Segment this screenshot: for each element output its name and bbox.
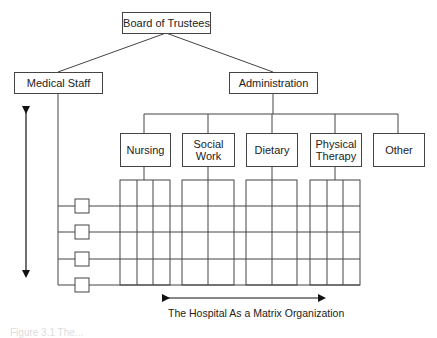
medical-row-node [75,199,89,213]
medical-staff-node: Medical Staff [14,72,103,94]
medical-row-node [75,225,89,239]
diagram-title: The Hospital As a Matrix Organization [168,307,344,319]
connector-board-admin [166,33,273,72]
social-work-node: Social Work [182,133,235,167]
physical-therapy-node: Physical Therapy [310,133,362,167]
nursing-node: Nursing [120,133,171,167]
board-of-trustees-node: Board of Trustees [122,12,211,34]
medical-row-node [75,278,89,292]
other-node: Other [373,133,425,167]
dietary-node: Dietary [246,133,298,167]
figure-caption: Figure 3.1 The... [10,327,83,338]
medical-row-node [75,252,89,266]
administration-node: Administration [229,72,318,94]
connector-board-medical [58,33,166,72]
